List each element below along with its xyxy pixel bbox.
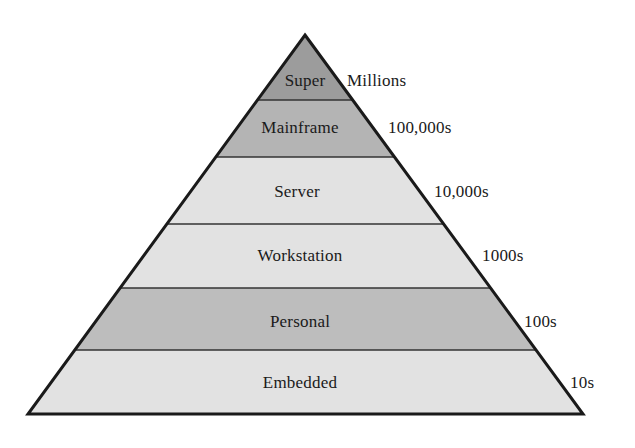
- scale-label-100s: 100s: [524, 312, 557, 332]
- scale-label-10s: 10s: [570, 373, 594, 393]
- pyramid-diagram: Super Mainframe Server Workstation Perso…: [0, 0, 635, 448]
- band-label-mainframe: Mainframe: [261, 118, 338, 138]
- scale-label-100000s: 100,000s: [388, 118, 451, 138]
- band-label-personal: Personal: [270, 312, 330, 332]
- band-label-server: Server: [274, 182, 320, 202]
- band-label-embedded: Embedded: [263, 373, 337, 393]
- scale-label-1000s: 1000s: [482, 246, 524, 266]
- band-label-super: Super: [285, 71, 326, 91]
- scale-label-10000s: 10,000s: [434, 182, 489, 202]
- band-label-workstation: Workstation: [258, 246, 343, 266]
- scale-label-millions: Millions: [347, 71, 406, 91]
